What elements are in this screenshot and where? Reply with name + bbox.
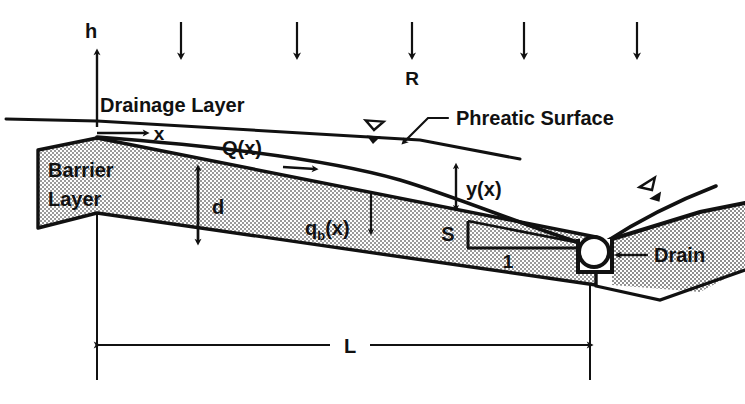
drain-label: Drain [654, 244, 705, 266]
flow-direction-arrow [283, 167, 315, 169]
drain-pipe-circle [579, 237, 609, 267]
water-table-open-triangle [365, 120, 384, 130]
base-leakage-tail: (x) [325, 217, 349, 239]
slope-run-label: 1 [503, 251, 514, 272]
drainage-layer-label: Drainage Layer [100, 94, 245, 116]
water-table-symbol-left [364, 120, 384, 144]
barrier-layer-label-line2: Layer [48, 188, 102, 210]
recharge-arrow-group: R [181, 22, 637, 89]
x-axis-label: x [154, 123, 165, 144]
water-table-filled-triangle [366, 135, 381, 144]
head-label: y(x) [466, 178, 502, 200]
flow-rate-label: Q(x) [222, 137, 262, 159]
water-table-symbol-right [640, 178, 667, 207]
barrier-layer-label-line1: Barrier [48, 159, 114, 181]
length-dimension: L [97, 335, 590, 357]
thickness-label: d [212, 196, 224, 218]
slope-rise-label: S [441, 223, 454, 245]
base-leakage-sub: b [317, 228, 325, 243]
water-table-open-triangle [640, 178, 660, 195]
recharge-label: R [405, 68, 419, 89]
phreatic-surface-callout: Phreatic Surface [404, 107, 614, 142]
length-label: L [344, 335, 356, 357]
water-table-filled-triangle [649, 191, 665, 205]
h-axis-label: h [85, 20, 97, 42]
figure-canvas: h x R Drainage Layer Phreatic Surface [0, 0, 745, 404]
base-leakage-main: q [305, 217, 317, 239]
cross-section-diagram: h x R Drainage Layer Phreatic Surface [0, 0, 745, 404]
phreatic-surface-label: Phreatic Surface [456, 107, 614, 129]
h-axis: h [85, 20, 97, 127]
